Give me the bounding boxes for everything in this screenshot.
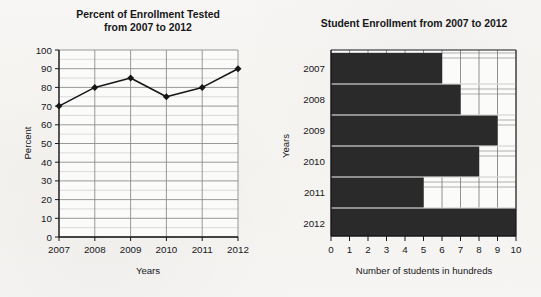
bar-2007	[331, 53, 442, 84]
line-chart-x-axis-label: Years	[136, 265, 160, 276]
y-tick-80: 80	[41, 82, 52, 93]
bar-y-label-2012: 2012	[303, 218, 325, 229]
bar-y-label-2010: 2010	[303, 156, 325, 167]
bar-chart: Student Enrollment from 2007 to 2012	[280, 18, 522, 276]
bar-2010	[331, 146, 479, 177]
line-chart-title-line1: Percent of Enrollment Tested	[76, 9, 220, 20]
bar-chart-title: Student Enrollment from 2007 to 2012	[321, 18, 508, 29]
x-tick-2010: 2010	[156, 244, 178, 255]
bar-2011	[331, 177, 424, 208]
x-tick-2011: 2011	[192, 244, 213, 255]
charts-svg: Percent of Enrollment Tested from 2007 t…	[0, 0, 541, 297]
y-tick-60: 60	[41, 119, 52, 130]
y-tick-70: 70	[41, 101, 52, 112]
bar-chart-x-axis-label: Number of students in hundreds	[356, 265, 493, 276]
bar-x-tick-10: 10	[511, 244, 522, 255]
bar-x-tick-7: 7	[458, 244, 463, 255]
bar-chart-y-ticklabels: 2007 2008 2009 2010 2011 2012	[303, 63, 325, 229]
bar-x-tick-9: 9	[495, 244, 500, 255]
figure-container: Percent of Enrollment Tested from 2007 t…	[0, 0, 541, 297]
y-tick-0: 0	[47, 232, 53, 243]
line-chart: Percent of Enrollment Tested from 2007 t…	[22, 9, 249, 276]
bar-2012	[331, 208, 516, 236]
bar-y-label-2007: 2007	[303, 63, 325, 74]
bar-x-tick-3: 3	[384, 244, 390, 255]
bar-x-tick-2: 2	[365, 244, 370, 255]
bar-x-tick-4: 4	[402, 244, 408, 255]
y-tick-20: 20	[41, 194, 52, 205]
x-tick-2008: 2008	[84, 244, 106, 255]
y-tick-30: 30	[41, 175, 52, 186]
bar-chart-x-ticklabels: 0 1 2 3 4 5 6 7 8 9 10	[328, 244, 522, 255]
bar-x-tick-8: 8	[476, 244, 482, 255]
y-tick-10: 10	[41, 213, 52, 224]
y-tick-50: 50	[41, 138, 52, 149]
y-tick-40: 40	[41, 157, 52, 168]
x-tick-2012: 2012	[227, 244, 249, 255]
y-tick-100: 100	[36, 45, 53, 56]
bar-y-label-2008: 2008	[303, 94, 325, 105]
bar-x-tick-0: 0	[328, 244, 334, 255]
bar-x-tick-5: 5	[421, 244, 427, 255]
line-chart-title-line2: from 2007 to 2012	[104, 22, 192, 33]
x-tick-2007: 2007	[48, 244, 70, 255]
bar-y-label-2011: 2011	[304, 187, 325, 198]
x-tick-2009: 2009	[120, 244, 142, 255]
line-chart-y-ticklabels: 100 90 80 70 60 50 40 30 20 10 0	[36, 45, 53, 243]
line-chart-y-axis-label: Percent	[22, 126, 33, 159]
bar-x-tick-6: 6	[439, 244, 445, 255]
bar-chart-x-tickmarks	[331, 236, 516, 241]
line-chart-x-ticklabels: 2007 2008 2009 2010 2011 2012	[48, 244, 249, 255]
bar-2009	[331, 115, 498, 146]
bar-chart-y-axis-label: Years	[280, 134, 291, 158]
bar-2008	[331, 84, 461, 115]
bar-y-label-2009: 2009	[303, 125, 325, 136]
bar-x-tick-1: 1	[347, 244, 352, 255]
y-tick-90: 90	[41, 63, 52, 74]
